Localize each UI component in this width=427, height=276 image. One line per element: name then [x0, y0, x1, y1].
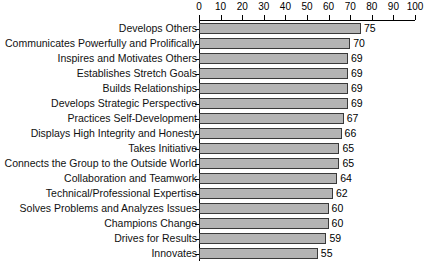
- x-axis-tick-label: 50: [295, 1, 319, 12]
- y-axis-tick-mark: [195, 89, 199, 90]
- bar-track: 67: [199, 111, 423, 126]
- bar-row: Inspires and Motivates Others69: [0, 51, 423, 66]
- y-axis-tick-mark: [195, 104, 199, 105]
- x-axis-tick-label: 20: [230, 1, 254, 12]
- bar-row: Establishes Stretch Goals69: [0, 66, 423, 81]
- bar: [199, 248, 318, 259]
- bar-row: Takes Initiative65: [0, 141, 423, 156]
- bar-row: Develops Strategic Perspective69: [0, 96, 423, 111]
- bar: [199, 233, 326, 244]
- bar-track: 65: [199, 141, 423, 156]
- x-axis-tick-label: 60: [317, 1, 341, 12]
- category-label: Connects the Group to the Outside World: [5, 156, 197, 171]
- y-axis-tick-mark: [195, 179, 199, 180]
- x-axis-tick-label: 40: [273, 1, 297, 12]
- bar-value-label: 65: [339, 156, 354, 171]
- bar-value-label: 75: [361, 21, 376, 36]
- bar-track: 64: [199, 171, 423, 186]
- bar-track: 60: [199, 201, 423, 216]
- bar: [199, 128, 342, 139]
- category-label: Takes Initiative: [128, 141, 197, 156]
- bar-rows: Develops Others75Communicates Powerfully…: [0, 21, 423, 261]
- bar-value-label: 69: [348, 66, 363, 81]
- bar: [199, 203, 329, 214]
- bar-value-label: 67: [344, 111, 359, 126]
- y-axis-tick-mark: [195, 164, 199, 165]
- bar-track: 70: [199, 36, 423, 51]
- bar-row: Builds Relationships69: [0, 81, 423, 96]
- bar: [199, 68, 348, 79]
- y-axis-tick-mark: [195, 149, 199, 150]
- bar-row: Champions Change60: [0, 216, 423, 231]
- bar: [199, 38, 350, 49]
- x-axis-tick-label: 30: [252, 1, 276, 12]
- x-axis-tick-label: 100: [403, 1, 427, 12]
- x-axis-tick-label: 70: [338, 1, 362, 12]
- bar-track: 69: [199, 96, 423, 111]
- bar-value-label: 69: [348, 51, 363, 66]
- bar-value-label: 60: [329, 216, 344, 231]
- category-label: Establishes Stretch Goals: [77, 66, 197, 81]
- bar-value-label: 70: [350, 36, 365, 51]
- y-axis-tick-mark: [195, 44, 199, 45]
- bar: [199, 218, 329, 229]
- bar-row: Collaboration and Teamwork64: [0, 171, 423, 186]
- bar-track: 59: [199, 231, 423, 246]
- bar-row: Drives for Results59: [0, 231, 423, 246]
- y-axis-tick-mark: [195, 194, 199, 195]
- category-label: Builds Relationships: [102, 81, 197, 96]
- bar-value-label: 62: [333, 186, 348, 201]
- bar-track: 55: [199, 246, 423, 261]
- bar-track: 69: [199, 66, 423, 81]
- bar-track: 75: [199, 21, 423, 36]
- bar: [199, 113, 344, 124]
- bar-track: 62: [199, 186, 423, 201]
- bar-value-label: 66: [342, 126, 357, 141]
- x-axis-tick-labels: 0102030405060708090100: [199, 0, 415, 22]
- bar-value-label: 55: [318, 246, 333, 261]
- y-axis-tick-mark: [195, 224, 199, 225]
- bar: [199, 143, 339, 154]
- category-label: Inspires and Motivates Others: [58, 51, 197, 66]
- bar-track: 69: [199, 81, 423, 96]
- bar-value-label: 69: [348, 81, 363, 96]
- category-label: Develops Strategic Perspective: [51, 96, 197, 111]
- bar-value-label: 69: [348, 96, 363, 111]
- y-axis-tick-mark: [195, 59, 199, 60]
- bar-row: Technical/Professional Expertise62: [0, 186, 423, 201]
- bar-row: Communicates Powerfully and Prolifically…: [0, 36, 423, 51]
- bar-value-label: 60: [329, 201, 344, 216]
- category-label: Technical/Professional Expertise: [46, 186, 197, 201]
- x-axis-tick-label: 10: [209, 1, 233, 12]
- bar-row: Practices Self-Development67: [0, 111, 423, 126]
- bar: [199, 23, 361, 34]
- bar-value-label: 64: [337, 171, 352, 186]
- x-axis-tick-label: 80: [360, 1, 384, 12]
- bar-value-label: 59: [326, 231, 341, 246]
- category-label: Drives for Results: [114, 231, 197, 246]
- category-label: Collaboration and Teamwork: [64, 171, 197, 186]
- y-axis-tick-mark: [195, 134, 199, 135]
- y-axis-tick-mark: [195, 209, 199, 210]
- y-axis-tick-mark: [195, 239, 199, 240]
- bar-row: Connects the Group to the Outside World6…: [0, 156, 423, 171]
- category-label: Solves Problems and Analyzes Issues: [20, 201, 197, 216]
- bar: [199, 188, 333, 199]
- bar-track: 65: [199, 156, 423, 171]
- x-axis-tick-label: 90: [381, 1, 405, 12]
- bar-row: Develops Others75: [0, 21, 423, 36]
- category-label: Practices Self-Development: [67, 111, 197, 126]
- bar: [199, 83, 348, 94]
- bar-track: 66: [199, 126, 423, 141]
- category-label: Displays High Integrity and Honesty: [31, 126, 197, 141]
- bar-track: 60: [199, 216, 423, 231]
- bar: [199, 158, 339, 169]
- y-axis-tick-mark: [195, 254, 199, 255]
- bar-row: Displays High Integrity and Honesty66: [0, 126, 423, 141]
- bar: [199, 173, 337, 184]
- bar-row: Innovates55: [0, 246, 423, 261]
- y-axis-tick-mark: [195, 29, 199, 30]
- category-label: Develops Others: [119, 21, 197, 36]
- bar: [199, 53, 348, 64]
